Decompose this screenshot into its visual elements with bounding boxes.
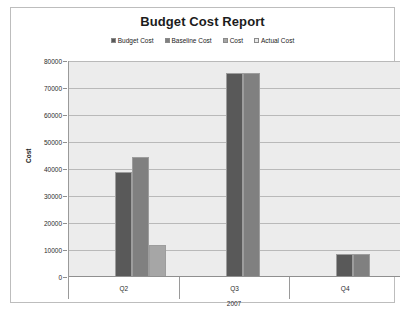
category-label-q2: Q2 bbox=[68, 277, 179, 299]
y-tick-label: 20000 bbox=[44, 220, 68, 227]
chart-title: Budget Cost Report bbox=[11, 14, 394, 29]
plot-area bbox=[68, 61, 400, 277]
plot-wrapper: 8000070000600005000040000300002000010000… bbox=[68, 61, 400, 277]
bar-cost-q2[interactable] bbox=[149, 245, 166, 277]
category-axis: Q2Q3Q4 bbox=[68, 277, 400, 299]
bar-group-q2 bbox=[69, 61, 179, 277]
category-label-text: Q3 bbox=[230, 285, 239, 292]
y-tick-label: 10000 bbox=[44, 247, 68, 254]
category-label-q4: Q4 bbox=[289, 277, 400, 299]
category-label-text: Q4 bbox=[341, 285, 350, 292]
bar-group-q3 bbox=[179, 61, 289, 277]
legend-swatch-icon bbox=[223, 38, 228, 43]
chart-screenshot: Budget Cost Report Budget CostBaseline C… bbox=[0, 0, 407, 317]
bar-budget-cost-q3[interactable] bbox=[226, 73, 243, 277]
y-axis-label: Cost bbox=[25, 149, 32, 163]
y-tick-label: 40000 bbox=[44, 166, 68, 173]
bar-budget-cost-q4[interactable] bbox=[336, 254, 353, 277]
chart-legend: Budget CostBaseline CostCostActual Cost bbox=[11, 37, 394, 44]
legend-item-label: Baseline Cost bbox=[172, 37, 212, 44]
legend-swatch-icon bbox=[254, 38, 259, 43]
legend-swatch-icon bbox=[111, 38, 116, 43]
legend-item-baseline-cost[interactable]: Baseline Cost bbox=[165, 37, 212, 44]
category-label-text: Q2 bbox=[120, 285, 129, 292]
legend-item-cost[interactable]: Cost bbox=[223, 37, 243, 44]
x-axis-label: 2007 bbox=[68, 300, 400, 307]
legend-item-label: Actual Cost bbox=[261, 37, 294, 44]
bar-baseline-cost-q4[interactable] bbox=[353, 254, 370, 277]
y-tick-label: 30000 bbox=[44, 193, 68, 200]
legend-item-label: Budget Cost bbox=[118, 37, 154, 44]
legend-item-label: Cost bbox=[230, 37, 243, 44]
y-tick-label: 50000 bbox=[44, 139, 68, 146]
category-label-q3: Q3 bbox=[179, 277, 290, 299]
bar-baseline-cost-q3[interactable] bbox=[243, 73, 260, 277]
legend-swatch-icon bbox=[165, 38, 170, 43]
y-tick-label: 0 bbox=[58, 274, 68, 281]
bar-groups bbox=[69, 61, 400, 277]
y-tick-label: 60000 bbox=[44, 112, 68, 119]
bar-budget-cost-q2[interactable] bbox=[115, 172, 132, 277]
legend-item-budget-cost[interactable]: Budget Cost bbox=[111, 37, 154, 44]
y-tick-label: 70000 bbox=[44, 85, 68, 92]
bar-group-q4 bbox=[290, 61, 400, 277]
y-tick-label: 80000 bbox=[44, 58, 68, 65]
legend-item-actual-cost[interactable]: Actual Cost bbox=[254, 37, 294, 44]
bar-baseline-cost-q2[interactable] bbox=[132, 157, 149, 277]
chart-frame: Budget Cost Report Budget CostBaseline C… bbox=[10, 7, 395, 303]
